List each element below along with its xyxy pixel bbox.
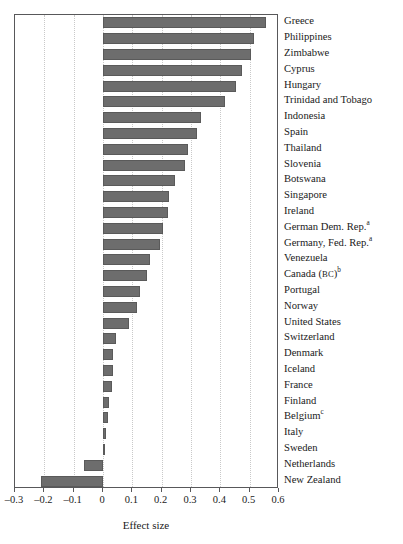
category-label-list: GreecePhilippinesZimbabweCyprusHungaryTr…: [284, 14, 403, 488]
category-label: Denmark: [284, 347, 323, 359]
bar: [103, 397, 109, 408]
category-label: Venezuela: [284, 252, 328, 264]
x-tick-mark: [102, 488, 103, 492]
bar: [103, 381, 112, 392]
category-label: Belgiumc: [284, 410, 324, 422]
category-label: Singapore: [284, 189, 327, 201]
category-label: Indonesia: [284, 110, 325, 122]
x-tick-mark: [131, 488, 132, 492]
category-label: Cyprus: [284, 63, 315, 75]
bar: [103, 365, 113, 376]
bar: [103, 207, 168, 218]
bar: [103, 144, 188, 155]
category-label: Botswana: [284, 173, 326, 185]
bar: [103, 17, 266, 28]
footnote-marker: a: [369, 235, 372, 243]
category-label: Hungary: [284, 79, 321, 91]
bar: [103, 254, 150, 265]
category-label: Slovenia: [284, 158, 321, 170]
footnote-marker: b: [337, 267, 341, 275]
category-label: New Zealand: [284, 474, 341, 486]
bar: [103, 49, 251, 60]
category-label: Finland: [284, 395, 316, 407]
bar: [103, 65, 242, 76]
category-label: Switzerland: [284, 331, 335, 343]
effect-size-bar-chart: –0.3–0.2–0.100.10.20.30.40.50.6 GreecePh…: [0, 0, 403, 544]
bar: [103, 33, 254, 44]
category-label: Portugal: [284, 284, 320, 296]
bar: [103, 428, 106, 439]
category-label: Germany, Fed. Rep.a: [284, 237, 372, 249]
bar: [103, 286, 140, 297]
x-tick-mark: [161, 488, 162, 492]
x-tick-mark: [14, 488, 15, 492]
bar-series: [15, 15, 277, 487]
x-tick-mark: [73, 488, 74, 492]
bar: [103, 191, 169, 202]
bar: [41, 476, 103, 487]
bar: [103, 112, 201, 123]
category-label: Ireland: [284, 205, 314, 217]
bar: [103, 81, 236, 92]
x-tick-mark: [278, 488, 279, 492]
bar: [103, 160, 185, 171]
x-tick-mark: [43, 488, 44, 492]
category-label: Philippines: [284, 31, 332, 43]
category-label: Trinidad and Tobago: [284, 94, 372, 106]
bar: [103, 175, 175, 186]
category-label: Thailand: [284, 142, 322, 154]
footnote-marker: c: [321, 409, 324, 417]
x-tick-mark: [249, 488, 250, 492]
bar: [103, 239, 160, 250]
bar: [103, 302, 137, 313]
category-label: German Dem. Rep.a: [284, 221, 370, 233]
bar: [103, 333, 116, 344]
bar: [103, 96, 225, 107]
bar: [103, 444, 105, 455]
category-label: Italy: [284, 426, 303, 438]
category-label: Zimbabwe: [284, 47, 329, 59]
category-label: Greece: [284, 15, 314, 27]
bar: [103, 318, 129, 329]
bar: [103, 223, 163, 234]
plot-area: [14, 14, 278, 488]
category-label: Sweden: [284, 442, 318, 454]
x-tick-mark: [190, 488, 191, 492]
x-tick-mark: [219, 488, 220, 492]
bar: [103, 270, 147, 281]
category-label: United States: [284, 316, 341, 328]
bar: [103, 412, 108, 423]
category-label: Spain: [284, 126, 308, 138]
footnote-marker: a: [366, 219, 369, 227]
category-label: Norway: [284, 300, 318, 312]
category-label: France: [284, 379, 313, 391]
category-label: Netherlands: [284, 458, 335, 470]
category-label: Iceland: [284, 363, 315, 375]
category-label: Canada (BC)b: [284, 268, 341, 280]
bar: [103, 349, 113, 360]
x-axis-title: Effect size: [14, 519, 278, 531]
bar: [84, 460, 103, 471]
x-tick-label: 0.6: [258, 494, 298, 505]
bar: [103, 128, 197, 139]
